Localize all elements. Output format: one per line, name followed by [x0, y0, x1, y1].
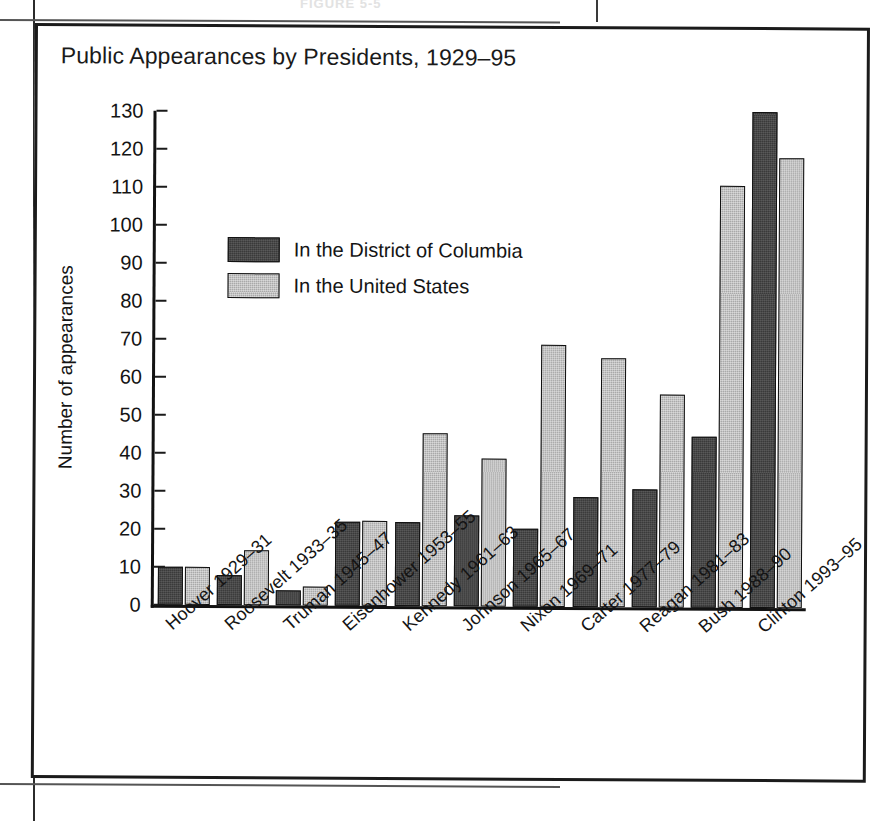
- y-tick-mark: [155, 300, 166, 302]
- y-tick-label: 10: [83, 556, 141, 576]
- legend-item-dc: In the District of Columbia: [228, 233, 523, 267]
- y-tick-label: 70: [84, 328, 142, 348]
- y-tick-label: 130: [85, 100, 143, 120]
- bar-dc: [157, 567, 182, 605]
- y-tick-label: 90: [85, 252, 143, 272]
- y-tick-mark: [155, 452, 166, 454]
- y-tick-mark: [154, 528, 165, 530]
- y-tick-label: 120: [85, 138, 143, 158]
- legend-swatch-dc-icon: [228, 237, 280, 262]
- bar-us: [777, 158, 805, 608]
- y-tick-mark: [155, 376, 166, 378]
- y-tick-mark: [155, 338, 166, 340]
- bar-us: [659, 395, 685, 608]
- bar-series-group: [38, 26, 873, 31]
- y-tick-label: 80: [84, 290, 142, 310]
- bar-dc: [750, 112, 778, 608]
- x-axis-labels: Hoover 1929–31Roosevelt 1933–35Truman 19…: [38, 26, 873, 31]
- figure-caption-ghost: FIGURE 5-5: [300, 0, 382, 11]
- legend-label-us: In the United States: [293, 274, 469, 298]
- y-tick-label: 50: [84, 404, 142, 424]
- figure-box: Public Appearances by Presidents, 1929–9…: [31, 23, 870, 783]
- y-tick-label: 110: [85, 176, 143, 196]
- y-tick-mark: [155, 414, 166, 416]
- y-axis-title: Number of appearances: [54, 217, 78, 517]
- page-rule-bottom: [0, 783, 560, 788]
- y-tick-mark: [157, 110, 168, 112]
- chart-legend: In the District of Columbia In the Unite…: [227, 233, 522, 307]
- legend-label-dc: In the District of Columbia: [294, 238, 523, 262]
- y-tick-mark: [156, 148, 167, 150]
- y-tick-label: 30: [83, 480, 141, 500]
- legend-item-us: In the United States: [227, 269, 522, 303]
- y-tick-label: 40: [84, 442, 142, 462]
- y-tick-mark: [154, 490, 165, 492]
- bar-chart-plot: Number of appearances 010203040506070809…: [34, 26, 873, 786]
- y-tick-label: 0: [83, 594, 141, 614]
- y-tick-mark: [156, 186, 167, 188]
- legend-swatch-us-icon: [227, 273, 279, 298]
- y-tick-label: 60: [84, 366, 142, 386]
- page-rule-gutter: [596, 0, 598, 22]
- y-tick-label: 100: [85, 214, 143, 234]
- y-tick-mark: [156, 262, 167, 264]
- book-page: FIGURE 5-5 Public Appearances by Preside…: [0, 0, 891, 821]
- y-tick-mark: [156, 224, 167, 226]
- y-axis-ticks: 0102030405060708090100110120130: [38, 26, 873, 31]
- y-tick-label: 20: [83, 518, 141, 538]
